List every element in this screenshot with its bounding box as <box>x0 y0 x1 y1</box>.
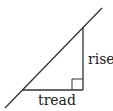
tread-label: tread <box>38 93 76 107</box>
right-angle-marker <box>72 79 83 90</box>
rise-label: rise <box>88 52 113 66</box>
